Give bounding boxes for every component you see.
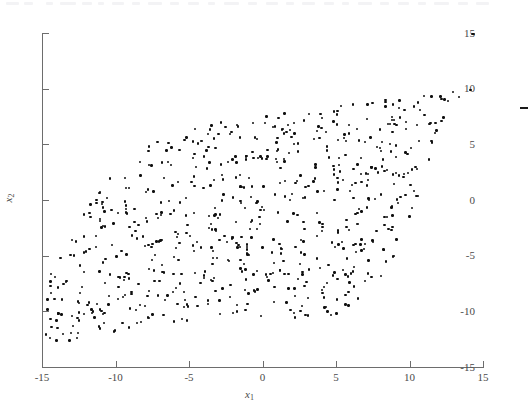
data-point (287, 124, 289, 126)
data-point (321, 289, 323, 291)
data-point (235, 161, 237, 163)
data-point (344, 294, 346, 296)
data-point (376, 146, 378, 148)
data-point (145, 191, 147, 193)
data-point (239, 200, 241, 202)
data-point (186, 224, 188, 226)
data-point (249, 228, 251, 230)
data-point (239, 267, 241, 269)
data-point (393, 255, 395, 257)
data-point (364, 141, 366, 143)
data-point (325, 131, 327, 133)
data-point (180, 273, 182, 275)
data-point (71, 239, 73, 241)
data-point (123, 276, 125, 278)
data-point (236, 304, 238, 306)
data-point (261, 206, 263, 208)
data-point (77, 332, 79, 334)
data-point (403, 109, 405, 111)
data-point (326, 282, 328, 284)
stray-dash-mark (520, 107, 528, 109)
data-point (70, 332, 72, 334)
data-point (372, 241, 374, 243)
data-point (252, 157, 254, 159)
data-point (125, 204, 127, 206)
data-point (95, 199, 97, 201)
data-point (291, 193, 293, 195)
data-point (243, 263, 245, 265)
data-point (214, 290, 216, 292)
data-point (136, 322, 138, 324)
data-point (301, 273, 303, 275)
data-point (190, 181, 192, 183)
data-point (221, 174, 223, 176)
data-point (377, 171, 379, 173)
data-point (222, 193, 224, 195)
data-point (386, 169, 388, 171)
data-point (395, 156, 397, 158)
data-point (296, 214, 298, 216)
data-point (131, 234, 133, 236)
data-point (179, 282, 181, 284)
data-point (359, 243, 361, 245)
data-point (383, 224, 385, 226)
data-point (69, 254, 71, 256)
data-point (157, 217, 159, 219)
data-point (206, 167, 208, 169)
data-point (167, 161, 169, 163)
data-point (280, 252, 282, 254)
data-point (248, 177, 250, 179)
data-point (299, 310, 301, 312)
data-point (393, 183, 395, 185)
data-point (321, 292, 323, 294)
data-point (155, 213, 157, 215)
data-point (240, 186, 242, 188)
data-point (283, 273, 285, 275)
x-tick-label: -5 (169, 372, 209, 383)
data-point (323, 306, 325, 308)
data-point (250, 221, 252, 223)
data-point (389, 143, 391, 145)
data-point (236, 310, 238, 312)
data-point (224, 126, 226, 128)
data-point (393, 119, 395, 121)
data-point (98, 270, 100, 272)
data-point (396, 198, 398, 200)
data-point (256, 138, 258, 140)
y-tick-mark (43, 144, 49, 145)
data-point (117, 276, 119, 278)
data-point (282, 260, 284, 262)
data-point (339, 170, 341, 172)
data-point (367, 197, 369, 199)
data-point (239, 174, 241, 176)
data-point (148, 268, 150, 270)
data-point (200, 246, 202, 248)
data-point (168, 200, 170, 202)
data-point (236, 246, 238, 248)
data-point (221, 199, 223, 201)
data-point (405, 121, 407, 123)
data-point (85, 250, 87, 252)
data-point (95, 235, 97, 237)
data-point (107, 303, 109, 305)
data-point (222, 178, 224, 180)
data-point (244, 207, 246, 209)
data-point (196, 241, 198, 243)
data-point (403, 173, 405, 175)
data-point (266, 276, 268, 278)
data-point (120, 250, 122, 252)
data-point (371, 102, 373, 104)
y-axis-label-subscript: 2 (7, 194, 16, 198)
data-point (380, 193, 382, 195)
data-point (99, 220, 101, 222)
data-point (175, 247, 177, 249)
data-point (192, 140, 194, 142)
y-tick-label: -10 (460, 306, 475, 317)
data-point (103, 210, 105, 212)
data-point (150, 246, 152, 248)
data-point (328, 156, 330, 158)
data-point (312, 180, 314, 182)
data-point (193, 153, 195, 155)
data-point (278, 243, 280, 245)
data-point (348, 124, 350, 126)
